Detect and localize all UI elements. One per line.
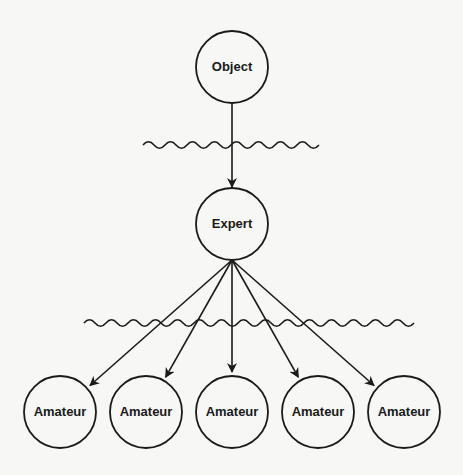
amateur-node-label-2: Amateur [106,404,186,420]
arrow-expert-to-amateur-4 [232,260,298,377]
wavy-barrier-lower [84,320,414,326]
nodes [24,31,440,448]
amateur-node-label-5: Amateur [364,404,444,420]
expert-node-label: Expert [192,216,272,232]
arrow-expert-to-amateur-2 [166,260,232,377]
arrow-expert-to-amateur-1 [90,260,232,386]
arrow-expert-to-amateur-5 [232,260,374,386]
amateur-node-label-3: Amateur [192,404,272,420]
amateur-node-label-4: Amateur [278,404,358,420]
diagram-canvas: Object Expert Amateur Amateur Amateur Am… [0,0,463,475]
object-node-label: Object [192,59,272,75]
wavy-barrier-upper [143,142,319,148]
amateur-node-label-1: Amateur [20,404,100,420]
